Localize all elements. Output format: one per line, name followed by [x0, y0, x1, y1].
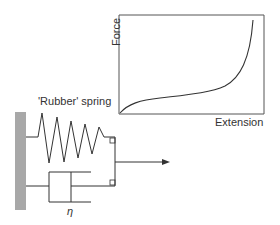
force-arrow-head [162, 159, 170, 165]
force-extension-curve [120, 20, 253, 113]
spring-joint [110, 138, 115, 143]
x-axis-label: Extension [215, 116, 263, 128]
dashpot-joint [110, 180, 115, 185]
fixed-wall [15, 112, 26, 210]
viscosity-label: η [67, 205, 73, 217]
dashpot-cylinder [49, 172, 91, 202]
spring-label: 'Rubber' spring [38, 95, 111, 107]
graph-axes [119, 15, 264, 114]
y-axis-label: Force [110, 18, 122, 46]
rubber-spring [26, 113, 115, 163]
diagram-canvas [0, 0, 280, 225]
